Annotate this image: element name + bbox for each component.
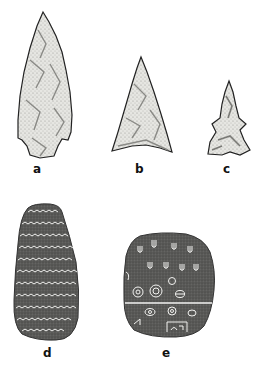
label-e: e xyxy=(162,347,170,359)
projectile-point-b xyxy=(112,57,172,152)
label-b: b xyxy=(135,163,144,175)
projectile-point-c xyxy=(208,81,250,155)
incised-stone-d xyxy=(14,204,79,340)
label-d: d xyxy=(43,347,52,359)
label-a: a xyxy=(33,163,41,175)
projectile-point-a xyxy=(18,12,72,158)
label-c: c xyxy=(223,163,230,175)
incised-stone-e xyxy=(124,233,215,337)
artifact-illustration xyxy=(0,0,274,375)
